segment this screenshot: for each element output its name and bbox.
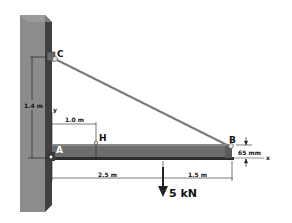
connector-c [47, 52, 58, 62]
cantilever-beam-diagram [0, 0, 292, 223]
cable-cb [55, 59, 229, 146]
point-h-marker [94, 141, 98, 145]
label-point-a: A [56, 146, 63, 155]
wall [20, 15, 52, 212]
label-y-axis: y [53, 107, 57, 113]
label-point-b: B [229, 136, 236, 145]
label-dim-a-load: 2.5 m [98, 172, 117, 178]
label-point-c: C [57, 50, 64, 59]
pin-a [46, 152, 55, 161]
dimension-1-0m [52, 122, 96, 142]
label-dim-load-b: 1.5 m [188, 172, 207, 178]
label-point-h: H [99, 134, 107, 143]
beam [52, 144, 234, 160]
label-dim-ah: 1.0 m [65, 117, 84, 123]
label-load: 5 kN [169, 188, 197, 199]
label-beam-depth: 65 mm [238, 150, 261, 156]
load-arrow-icon [158, 167, 168, 197]
label-x-axis: x [266, 155, 270, 161]
label-wall-height: 1.4 m [23, 103, 44, 109]
